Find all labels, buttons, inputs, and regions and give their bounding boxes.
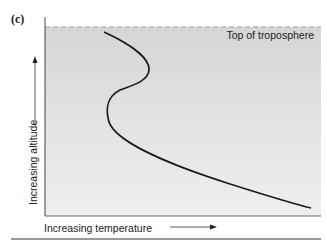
y-axis-label: Increasing altitude (27, 120, 39, 205)
temperature-arrow-icon (210, 225, 217, 230)
altitude-arrow-icon (33, 56, 38, 63)
tropopause-label: Top of troposphere (226, 29, 314, 41)
x-axis-label: Increasing temperature (44, 222, 152, 234)
plot-area (45, 27, 321, 216)
